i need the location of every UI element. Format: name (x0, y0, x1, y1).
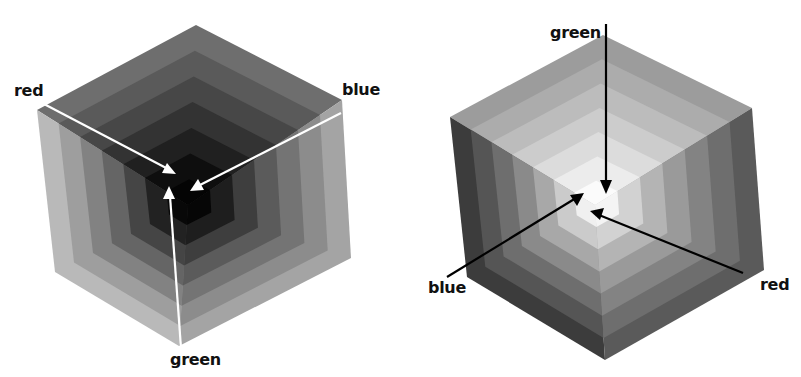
left-red-label: red (14, 83, 43, 99)
cropped-caption-fragment (480, 0, 486, 3)
color-cube-diagram (0, 0, 801, 377)
cropped-caption-fragment (418, 0, 424, 3)
right-green-label: green (550, 25, 601, 41)
right-red-label: red (760, 277, 789, 293)
left-blue-label: blue (342, 82, 380, 98)
right-blue-label: blue (428, 280, 466, 296)
left-green-label: green (170, 352, 221, 368)
